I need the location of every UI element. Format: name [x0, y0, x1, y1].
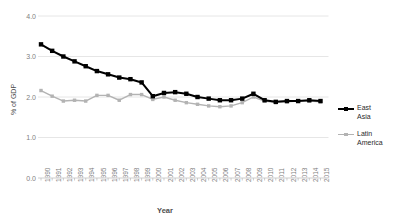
data-point-marker [73, 99, 76, 102]
data-point-marker [72, 59, 76, 63]
data-point-marker [229, 104, 232, 107]
data-point-marker [140, 93, 143, 96]
data-point-marker [240, 96, 244, 100]
series-line [41, 44, 321, 102]
data-point-marker [185, 101, 188, 104]
data-point-marker [106, 72, 110, 76]
data-point-marker [229, 98, 233, 102]
data-point-marker [296, 99, 300, 103]
data-point-marker [128, 77, 132, 81]
data-point-marker [207, 96, 211, 100]
legend-marker [344, 107, 348, 111]
data-point-marker [218, 98, 222, 102]
data-point-marker [50, 94, 53, 97]
legend-marker [344, 133, 347, 136]
data-point-marker [285, 99, 289, 103]
data-point-marker [184, 92, 188, 96]
data-point-marker [84, 64, 88, 68]
data-point-marker [195, 95, 199, 99]
data-point-marker [262, 98, 266, 102]
data-point-marker [62, 99, 65, 102]
data-point-marker [84, 99, 87, 102]
data-point-marker [118, 99, 121, 102]
plot-area [0, 0, 411, 221]
data-point-marker [61, 54, 65, 58]
data-point-marker [106, 94, 109, 97]
data-point-marker [95, 94, 98, 97]
legend-label: East Asia [357, 104, 371, 121]
data-point-marker [207, 104, 210, 107]
data-point-marker [139, 80, 143, 84]
data-point-marker [162, 91, 166, 95]
data-point-marker [241, 101, 244, 104]
data-point-marker [95, 69, 99, 73]
data-point-marker [50, 49, 54, 53]
data-point-marker [162, 95, 165, 98]
data-point-marker [117, 75, 121, 79]
data-point-marker [151, 94, 155, 98]
data-point-marker [129, 93, 132, 96]
data-point-marker [218, 105, 221, 108]
data-point-marker [318, 99, 322, 103]
data-point-marker [39, 89, 42, 92]
data-point-marker [173, 90, 177, 94]
data-point-marker [196, 103, 199, 106]
chart-container: % of GDP Year 0.01.02.03.04.0 1990199119… [0, 0, 411, 221]
legend-label: Latin America [357, 130, 383, 147]
data-point-marker [251, 92, 255, 96]
data-point-marker [39, 42, 43, 46]
data-point-marker [274, 100, 278, 104]
data-point-marker [173, 99, 176, 102]
data-point-marker [307, 98, 311, 102]
